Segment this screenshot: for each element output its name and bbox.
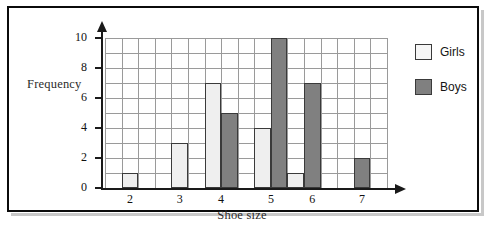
gridline-horizontal [105,68,387,69]
gridline-horizontal [105,38,387,39]
bar-boys-size-7 [354,158,371,188]
x-axis-tick-label: 2 [118,193,142,206]
bar-girls-size-5 [254,128,271,188]
y-axis-line [101,30,103,188]
gridline-horizontal [105,128,387,129]
x-axis-tick-label: 5 [259,193,283,206]
y-axis-tick-label: 8 [61,61,87,73]
gridline-vertical [387,38,388,188]
legend-label: Girls [440,45,465,59]
y-axis-tick [95,37,102,39]
y-axis-arrow-icon [97,21,107,32]
bar-boys-size-5 [271,38,288,188]
girls-swatch-icon [415,44,432,60]
gridline-horizontal [105,53,387,54]
legend-label: Boys [440,80,467,94]
bar-girls-size-3 [171,143,188,188]
x-axis-tick-label: 7 [350,193,374,206]
bar-girls-size-6 [287,173,304,188]
y-axis-tick [95,127,102,129]
y-axis-tick [95,157,102,159]
plot-area [105,38,387,188]
x-axis-arrow-icon [395,184,406,194]
boys-swatch-icon [415,79,432,95]
x-axis-title: Shoe size [9,208,475,223]
x-axis-tick-label: 4 [209,193,233,206]
y-axis-tick [95,187,102,189]
y-axis-tick [95,97,102,99]
y-axis-tick-label: 0 [61,181,87,193]
y-axis-tick-label: 4 [61,121,87,133]
bar-girls-size-2 [122,173,139,188]
y-axis-tick [95,67,102,69]
figure-container: Frequency 0246810 234567 Shoe size Girls… [0,0,491,225]
x-axis-tick-label: 6 [300,193,324,206]
bar-girls-size-4 [205,83,222,188]
gridline-horizontal [105,83,387,84]
gridline-horizontal [105,113,387,114]
bar-boys-size-6 [304,83,321,188]
chart-frame: Frequency 0246810 234567 Shoe size Girls… [7,6,479,212]
y-axis-tick-label: 2 [61,151,87,163]
y-axis-tick-label: 6 [61,91,87,103]
y-axis-title: Frequency [27,77,82,92]
gridline-horizontal [105,173,387,174]
x-axis-tick-label: 3 [168,193,192,206]
gridline-horizontal [105,158,387,159]
bar-boys-size-4 [221,113,238,188]
frame-shadow-right [481,10,484,215]
y-axis-tick-label: 10 [61,31,87,43]
x-axis-line [101,188,397,190]
gridline-horizontal [105,143,387,144]
gridline-horizontal [105,98,387,99]
